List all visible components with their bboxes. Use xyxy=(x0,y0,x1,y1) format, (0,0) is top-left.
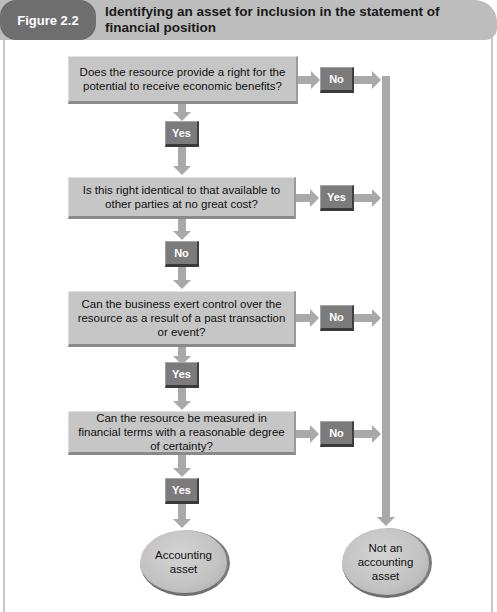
arrow-right-shaft xyxy=(296,314,310,322)
arrow-down-head xyxy=(377,517,395,526)
arrow-right-head xyxy=(372,189,381,207)
question-box-3: Can the business exert control over the … xyxy=(68,291,296,347)
badge-no-3: No xyxy=(320,305,354,331)
arrow-right-shaft xyxy=(354,76,372,84)
badge-yes-2: Yes xyxy=(320,185,354,211)
arrow-down-head xyxy=(173,231,191,240)
arrow-down-shaft xyxy=(178,147,186,167)
arrow-right-shaft xyxy=(298,76,311,84)
arrow-right-head xyxy=(310,189,319,207)
arrow-right-head xyxy=(310,309,319,327)
outcome-label: Not an accounting asset xyxy=(353,541,419,583)
arrow-down-shaft xyxy=(178,219,186,231)
figure-header: Figure 2.2 Identifying an asset for incl… xyxy=(0,0,497,40)
badge-yes-4: Yes xyxy=(165,478,199,504)
figure-title: Identifying an asset for inclusion in th… xyxy=(105,4,485,36)
outcome-not-accounting-asset: Not an accounting asset xyxy=(342,528,432,598)
arrow-right-shaft xyxy=(354,194,372,202)
arrow-right-head xyxy=(311,71,320,89)
badge-no-2: No xyxy=(165,241,199,267)
question-box-4: Can the resource be measured in financia… xyxy=(68,411,296,455)
arrow-down-shaft xyxy=(178,104,186,112)
arrow-down-head xyxy=(173,112,191,121)
arrow-right-head xyxy=(372,71,381,89)
arrow-down-shaft xyxy=(178,388,186,402)
arrow-right-head xyxy=(372,309,381,327)
arrow-right-head xyxy=(372,425,381,443)
arrow-down-head xyxy=(173,519,191,528)
arrow-right-shaft xyxy=(296,194,310,202)
arrow-down-head xyxy=(173,468,191,477)
arrow-right-shaft xyxy=(354,314,372,322)
outcome-label: Accounting asset xyxy=(149,548,219,576)
badge-no-1: No xyxy=(320,67,354,93)
arrow-right-head xyxy=(310,425,319,443)
arrow-down-head xyxy=(173,166,191,175)
badge-yes-1: Yes xyxy=(165,121,199,147)
question-box-2: Is this right identical to that availabl… xyxy=(68,177,296,219)
arrow-right-shaft xyxy=(354,430,372,438)
collector-line xyxy=(382,76,390,518)
badge-yes-3: Yes xyxy=(165,362,199,388)
figure-label: Figure 2.2 xyxy=(0,0,96,40)
arrow-right-shaft xyxy=(296,430,310,438)
arrow-down-shaft xyxy=(178,455,186,469)
arrow-down-head xyxy=(173,280,191,289)
question-box-1: Does the resource provide a right for th… xyxy=(68,56,298,104)
outcome-accounting-asset: Accounting asset xyxy=(140,530,230,596)
arrow-down-head xyxy=(173,401,191,410)
badge-no-4: No xyxy=(320,421,354,447)
arrow-down-shaft xyxy=(178,504,186,520)
arrow-down-shaft xyxy=(178,267,186,281)
